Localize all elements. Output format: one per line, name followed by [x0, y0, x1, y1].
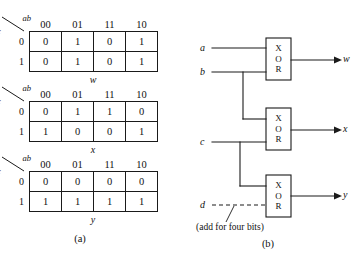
kmap-cell: 1 — [30, 192, 62, 212]
kmap-cell: 0 — [94, 52, 126, 72]
kmap-cell: 1 — [62, 52, 94, 72]
kmap-cell: 0 — [30, 32, 62, 52]
kmap-row-header: 1 — [14, 52, 30, 72]
kmap-cell: 0 — [94, 32, 126, 52]
kmap-table: ab c 00 01 11 10 0 0 1 0 1 1 0 1 0 — [14, 18, 158, 72]
kmap-row-header: 0 — [14, 102, 30, 122]
kmap-row-header: 1 — [14, 192, 30, 212]
kmap-top-var: ab — [23, 153, 32, 163]
output-label-y: y — [343, 189, 347, 200]
kmap-header-row: ab c 00 01 11 10 — [14, 18, 158, 32]
kmap-row: 1 1 0 0 1 — [14, 122, 158, 142]
kmap-top-var: ab — [23, 13, 32, 23]
kmap-cell: 1 — [30, 122, 62, 142]
gate-letter: X — [266, 180, 291, 191]
kmap-row-header: 1 — [14, 122, 30, 142]
xor-gate-3-label: X O R — [266, 180, 291, 212]
kmap-cell: 0 — [126, 102, 158, 122]
kmap-row: 0 0 1 1 0 — [14, 102, 158, 122]
kmap-col-header: 11 — [94, 18, 126, 32]
kmap-col-header: 01 — [62, 18, 94, 32]
kmap-w: ab c 00 01 11 10 0 0 1 0 1 1 0 1 0 — [14, 18, 158, 72]
kmap-output-label: x — [21, 144, 165, 155]
kmap-col-header: 11 — [94, 88, 126, 102]
kmap-row: 0 0 1 0 1 — [14, 32, 158, 52]
kmap-output-label: w — [21, 74, 165, 85]
input-label-c: c — [200, 136, 204, 147]
kmap-corner-cell: ab c — [14, 158, 30, 172]
kmap-y: ab c 00 01 11 10 0 0 0 0 0 1 1 1 1 — [14, 158, 158, 212]
gate-letter: R — [266, 201, 291, 212]
gate-letter: R — [266, 64, 291, 75]
kmap-cell: 1 — [126, 122, 158, 142]
arrowhead-x-icon — [334, 127, 342, 134]
four-bits-note: (add for four bits) — [196, 222, 264, 232]
kmap-cell: 1 — [126, 32, 158, 52]
gate-letter: X — [266, 43, 291, 54]
kmap-col-header: 10 — [126, 158, 158, 172]
corner-diagonal-box: ab c — [0, 156, 30, 172]
kmap-output-label: y — [21, 214, 165, 225]
corner-diagonal-box: ab c — [0, 16, 30, 32]
kmap-table: ab c 00 01 11 10 0 0 0 0 0 1 1 1 1 — [14, 158, 158, 212]
output-label-x: x — [343, 123, 347, 134]
kmap-cell: 1 — [94, 192, 126, 212]
kmap-cell: 0 — [126, 172, 158, 192]
kmap-header-row: ab c 00 01 11 10 — [14, 158, 158, 172]
kmap-side-var: c — [0, 166, 1, 176]
kmap-cell: 1 — [126, 192, 158, 212]
input-label-b: b — [200, 66, 205, 77]
kmap-row: 1 1 1 1 1 — [14, 192, 158, 212]
kmap-corner-cell: ab c — [14, 18, 30, 32]
kmap-side-var: c — [0, 26, 1, 36]
kmap-cell: 1 — [62, 102, 94, 122]
figure-container: ab c 00 01 11 10 0 0 1 0 1 1 0 1 0 — [0, 0, 352, 260]
output-label-w: w — [343, 53, 350, 64]
note-leader-line — [226, 206, 234, 222]
kmap-header-row: ab c 00 01 11 10 — [14, 88, 158, 102]
corner-diagonal-box: ab c — [0, 86, 30, 102]
gate-letter: O — [266, 124, 291, 135]
gate-letter: O — [266, 54, 291, 65]
xor-gate-2-label: X O R — [266, 113, 291, 145]
kmap-cell: 1 — [126, 52, 158, 72]
kmap-col-header: 11 — [94, 158, 126, 172]
kmap-side-var: c — [0, 96, 1, 106]
kmap-row: 1 0 1 0 1 — [14, 52, 158, 72]
kmap-cell: 0 — [62, 172, 94, 192]
caption-a: (a) — [50, 233, 110, 244]
kmap-cell: 0 — [94, 122, 126, 142]
kmap-col-header: 00 — [30, 158, 62, 172]
kmap-cell: 0 — [30, 102, 62, 122]
kmap-cell: 0 — [62, 122, 94, 142]
arrowhead-w-icon — [334, 57, 342, 64]
kmap-cell: 0 — [94, 172, 126, 192]
kmap-row-header: 0 — [14, 32, 30, 52]
input-label-a: a — [200, 42, 205, 53]
kmap-cell: 0 — [30, 172, 62, 192]
xor-gate-1-label: X O R — [266, 43, 291, 75]
kmap-cell: 1 — [94, 102, 126, 122]
kmap-row: 0 0 0 0 0 — [14, 172, 158, 192]
gate-letter: O — [266, 191, 291, 202]
kmap-row-header: 0 — [14, 172, 30, 192]
kmap-cell: 1 — [62, 32, 94, 52]
gate-letter: R — [266, 134, 291, 145]
kmap-top-var: ab — [23, 83, 32, 93]
circuit-diagram: a b c d w x y X O R X O R X O R (add for… — [186, 0, 352, 260]
kmap-cell: 0 — [30, 52, 62, 72]
kmap-corner-cell: ab c — [14, 88, 30, 102]
kmap-x: ab c 00 01 11 10 0 0 1 1 0 1 1 0 0 — [14, 88, 158, 142]
kmap-cell: 1 — [62, 192, 94, 212]
kmap-col-header: 00 — [30, 18, 62, 32]
gate-letter: X — [266, 113, 291, 124]
kmap-col-header: 00 — [30, 88, 62, 102]
kmap-col-header: 10 — [126, 88, 158, 102]
kmap-col-header: 10 — [126, 18, 158, 32]
arrowhead-y-icon — [334, 193, 342, 200]
kmap-table: ab c 00 01 11 10 0 0 1 1 0 1 1 0 0 — [14, 88, 158, 142]
caption-b: (b) — [238, 238, 298, 249]
kmap-col-header: 01 — [62, 158, 94, 172]
input-label-d: d — [200, 199, 205, 210]
kmap-col-header: 01 — [62, 88, 94, 102]
